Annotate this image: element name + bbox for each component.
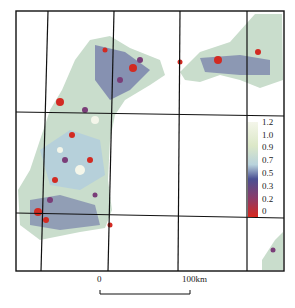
region-northeast (178, 14, 284, 88)
legend-label: 0.5 (262, 169, 273, 178)
scale-end-label: 100km (182, 274, 207, 284)
scale-start-label: 0 (97, 274, 102, 284)
legend-label: 0.2 (262, 195, 273, 204)
region-southeast (262, 232, 283, 270)
legend-label: 0 (262, 207, 267, 216)
legend-label: 1.0 (262, 131, 273, 140)
legend-label: 0.3 (262, 182, 273, 191)
map-canvas (0, 0, 295, 308)
scale-bar (100, 290, 190, 294)
legend-color-bar (248, 122, 258, 217)
legend-label: 1.2 (262, 118, 273, 127)
legend-label: 0.7 (262, 156, 273, 165)
region-main (18, 36, 165, 240)
legend-label: 0.9 (262, 143, 273, 152)
